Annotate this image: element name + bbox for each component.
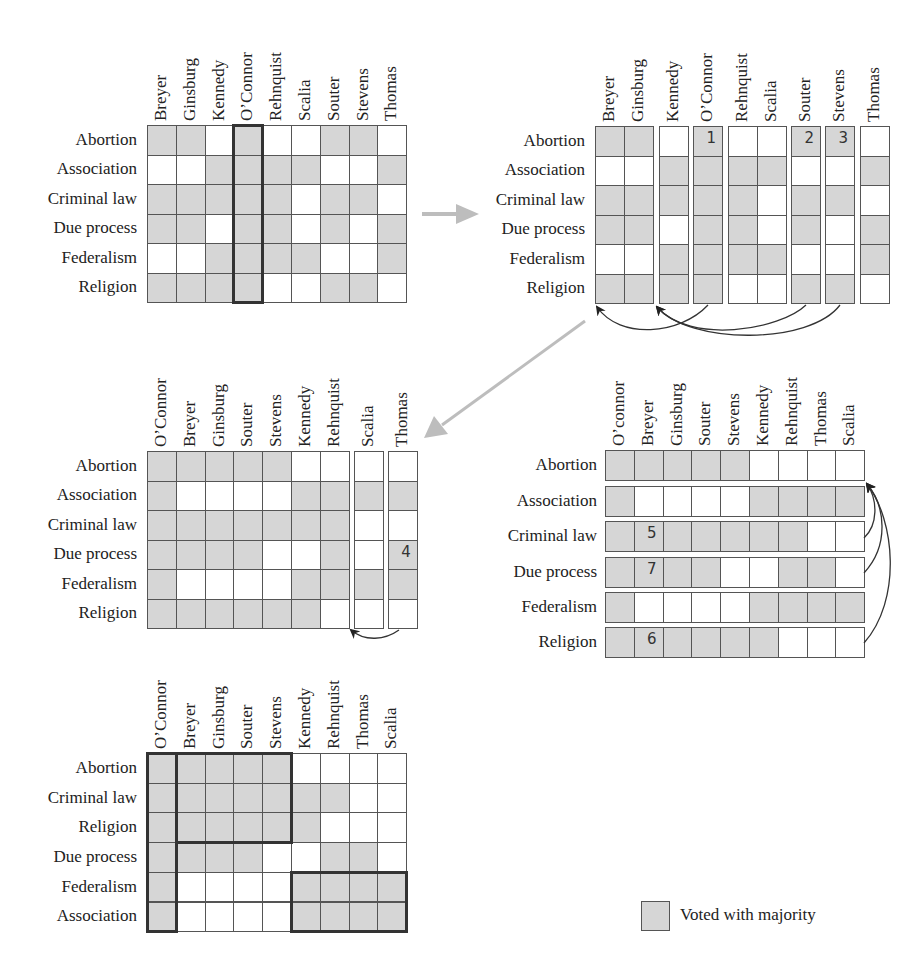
legend-label: Voted with majority: [680, 904, 816, 926]
arrows-layer: [0, 0, 916, 953]
move-arrows-step4: [864, 484, 890, 643]
move-arrow-step3: [351, 630, 399, 638]
flow-arrow-right: [422, 204, 479, 224]
move-arrows-step2: [597, 305, 840, 335]
flow-arrow-down-left: [424, 321, 585, 438]
legend-swatch-majority: [641, 901, 670, 931]
